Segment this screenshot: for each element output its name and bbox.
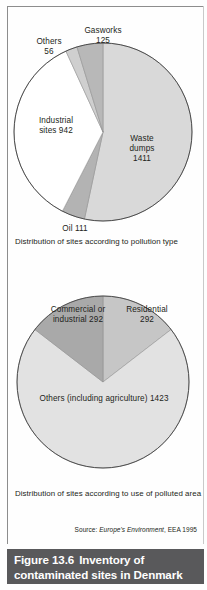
pie-chart-land-use: Commercial or industrial 292 Residential… bbox=[0, 272, 207, 482]
source-suffix: , EEA 1995 bbox=[164, 526, 197, 533]
pie-chart-2-graphic bbox=[0, 272, 207, 482]
figure-caption-bar: Figure 13.6Inventory of contaminated sit… bbox=[7, 549, 204, 584]
figure-caption-line-2: contaminated sites in Denmark bbox=[14, 567, 198, 582]
pie1-label-others: Others 56 bbox=[21, 37, 77, 57]
pie1-label-industrial-sites: Industrial sites 942 bbox=[23, 116, 89, 136]
figure-number: Figure 13.6 bbox=[14, 553, 74, 566]
pie2-label-others: Others (including agriculture) 1423 bbox=[21, 394, 187, 404]
frame-top-rule bbox=[7, 6, 204, 7]
source-prefix: Source: bbox=[75, 526, 98, 533]
pie1-label-waste-dumps: Waste dumps 1411 bbox=[113, 134, 171, 165]
chart1-caption: Distribution of sites according to pollu… bbox=[15, 237, 178, 247]
figure-container: Gasworks 125 Others 56 Industrial sites … bbox=[0, 0, 207, 590]
figure-title-part-1: Inventory of bbox=[79, 553, 144, 566]
pie-chart-pollution-type: Gasworks 125 Others 56 Industrial sites … bbox=[0, 8, 207, 230]
chart2-caption: Distribution of sites according to use o… bbox=[15, 489, 201, 499]
pie2-label-commercial-industrial: Commercial or industrial 292 bbox=[40, 305, 116, 325]
pie1-label-oil: Oil 111 bbox=[43, 224, 107, 234]
source-publication-title: Europe's Environment bbox=[99, 526, 164, 533]
source-credit: Source: Europe's Environment, EEA 1995 bbox=[75, 526, 197, 534]
pie2-label-residential: Residential 292 bbox=[116, 305, 178, 325]
figure-caption-line-1: Figure 13.6Inventory of bbox=[14, 552, 198, 567]
